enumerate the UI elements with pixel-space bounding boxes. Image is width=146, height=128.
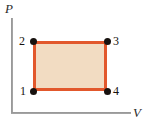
pressure-axis-label: P: [5, 2, 13, 15]
state-label-4: 4: [113, 85, 119, 97]
state-point-3: [104, 38, 111, 45]
state-point-4: [104, 88, 111, 95]
volume-axis-line: [11, 112, 131, 114]
state-label-1: 1: [20, 85, 26, 97]
state-point-1: [30, 88, 37, 95]
cycle-rectangle: [33, 41, 107, 91]
pv-diagram-figure: P V 1 2 3 4: [0, 0, 146, 128]
state-label-3: 3: [113, 35, 119, 47]
pressure-axis-line: [11, 18, 13, 114]
volume-axis-label: V: [133, 106, 141, 119]
state-label-2: 2: [19, 35, 25, 47]
state-point-2: [30, 38, 37, 45]
